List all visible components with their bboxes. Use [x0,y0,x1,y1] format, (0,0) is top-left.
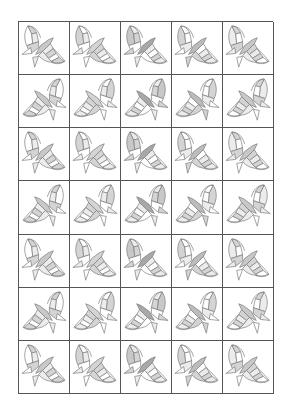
butterfly-icon [223,75,273,127]
butterfly-cell[interactable] [19,75,70,128]
butterfly-icon [70,181,120,233]
butterfly-cell[interactable] [70,341,121,394]
butterfly-icon [223,128,273,180]
butterfly-cell[interactable] [19,22,70,75]
butterfly-icon [70,75,120,127]
butterfly-icon [19,341,69,393]
butterfly-icon [70,288,120,340]
butterfly-icon [121,181,171,233]
butterfly-icon [172,235,222,287]
butterfly-cell[interactable] [223,22,274,75]
butterfly-cell[interactable] [223,75,274,128]
butterfly-icon [223,181,273,233]
butterfly-icon [172,181,222,233]
butterfly-cell[interactable] [70,181,121,234]
butterfly-cell[interactable] [19,288,70,341]
butterfly-icon [172,22,222,74]
butterfly-icon [172,341,222,393]
butterfly-cell[interactable] [70,288,121,341]
butterfly-cell[interactable] [70,128,121,181]
butterfly-cell[interactable] [70,75,121,128]
butterfly-icon [223,288,273,340]
butterfly-cell[interactable] [223,128,274,181]
butterfly-grid [18,21,273,394]
butterfly-cell[interactable] [223,288,274,341]
butterfly-icon [223,22,273,74]
butterfly-cell[interactable] [172,235,223,288]
butterfly-icon [121,128,171,180]
butterfly-cell[interactable] [121,181,172,234]
butterfly-icon [70,128,120,180]
worksheet-page [0,0,288,414]
butterfly-icon [172,288,222,340]
butterfly-cell[interactable] [121,128,172,181]
butterfly-cell[interactable] [19,181,70,234]
butterfly-cell[interactable] [172,128,223,181]
butterfly-cell[interactable] [172,22,223,75]
butterfly-icon [19,22,69,74]
butterfly-cell[interactable] [223,235,274,288]
butterfly-cell[interactable] [121,288,172,341]
butterfly-cell[interactable] [223,181,274,234]
butterfly-cell[interactable] [121,22,172,75]
butterfly-icon [70,341,120,393]
butterfly-cell[interactable] [172,341,223,394]
butterfly-icon [121,22,171,74]
butterfly-icon [223,235,273,287]
butterfly-cell[interactable] [121,341,172,394]
butterfly-icon [19,181,69,233]
butterfly-cell[interactable] [19,128,70,181]
butterfly-cell[interactable] [19,341,70,394]
butterfly-cell[interactable] [121,235,172,288]
butterfly-icon [121,235,171,287]
butterfly-cell[interactable] [70,235,121,288]
butterfly-cell[interactable] [19,235,70,288]
butterfly-icon [121,288,171,340]
butterfly-cell[interactable] [172,75,223,128]
butterfly-icon [172,128,222,180]
butterfly-icon [19,235,69,287]
butterfly-icon [70,235,120,287]
butterfly-icon [121,75,171,127]
butterfly-cell[interactable] [172,288,223,341]
butterfly-icon [223,341,273,393]
butterfly-icon [121,341,171,393]
butterfly-icon [172,75,222,127]
butterfly-cell[interactable] [70,22,121,75]
butterfly-cell[interactable] [223,341,274,394]
butterfly-icon [70,22,120,74]
butterfly-icon [19,288,69,340]
butterfly-icon [19,128,69,180]
butterfly-icon [19,75,69,127]
butterfly-cell[interactable] [121,75,172,128]
butterfly-cell[interactable] [172,181,223,234]
